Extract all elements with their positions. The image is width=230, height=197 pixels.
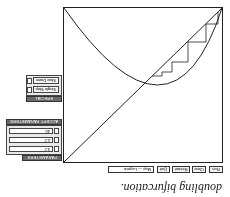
param-n-field[interactable]: 40 [9,128,53,134]
cobweb-plot [63,7,223,163]
single-step-toggle[interactable]: Single Step [33,86,59,93]
single-step-checkbox[interactable] [27,87,32,93]
logistic-curve [64,8,222,85]
clear-button[interactable]: Clear [192,166,206,173]
parameters-header: PARAMETERS [22,155,62,161]
param-x0-marker [54,137,59,143]
param-n-marker [54,128,59,134]
param-r-marker [54,146,59,152]
restart-button[interactable]: Restart [172,166,190,173]
accept-parameters-button[interactable]: ACCEPT PARAMETERS [6,119,62,125]
app-window: doubling bifurcation. Run Clear Restart … [0,0,230,197]
quit-button[interactable]: Quit [157,166,170,173]
slow-down-checkbox[interactable] [27,78,32,84]
param-x0-field[interactable]: 0.2 [9,137,53,143]
slow-down-toggle[interactable]: Slow Down [33,77,59,84]
special-effects-header: SPECIAL EFFECTS [26,96,62,102]
identity-line [64,8,222,162]
cobweb-diagram [64,8,222,162]
param-r-field[interactable]: 3.2 [9,146,53,152]
special-effects-panel: Single Step Slow Down [26,75,62,96]
run-button[interactable]: Run [209,166,223,173]
map-selector[interactable]: Map — Logistic [108,166,154,173]
figure-caption: doubling bifurcation. [120,180,222,195]
parameters-panel: 3.2 0.2 40 [6,125,62,155]
